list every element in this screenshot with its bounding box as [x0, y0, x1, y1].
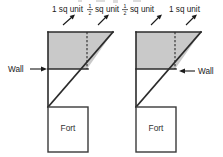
left-triangle-frac-denominator: 2	[89, 10, 92, 16]
right-fort-label: Fort	[149, 123, 165, 133]
left-triangle-frac-numerator: 1	[89, 3, 92, 9]
diagram-svg: Fort Wall 1 sq unit 1 2 sq unit	[0, 0, 223, 157]
right-triangle-pointer-arrow-icon	[186, 15, 197, 26]
left-panel: Fort Wall 1 sq unit 1 2 sq unit	[8, 3, 120, 152]
right-rect-area-label: 1 sq unit	[169, 5, 201, 14]
right-wall-label: Wall	[198, 67, 214, 76]
right-triangle-frac-denominator: 2	[124, 10, 127, 16]
left-wall-arrow-icon	[30, 66, 47, 71]
top-crop-remnant	[78, 0, 141, 3]
right-triangle-frac-numerator: 1	[124, 3, 127, 9]
left-triangle-area-unit: sq unit	[95, 5, 120, 14]
right-shaded-rectangle	[136, 32, 175, 69]
left-wall-label: Wall	[8, 65, 24, 74]
left-triangle-area-label: 1 2 sq unit	[87, 3, 120, 16]
right-triangle-area-unit: sq unit	[130, 5, 155, 14]
left-rect-pointer-arrow-icon	[63, 15, 75, 26]
right-triangle-area-label: 1 2 sq unit	[122, 3, 155, 16]
right-rect-pointer-arrow-icon	[151, 15, 162, 26]
left-fort-label: Fort	[61, 123, 77, 133]
left-triangle-pointer-arrow-icon	[98, 15, 109, 26]
left-rect-area-label: 1 sq unit	[52, 5, 84, 14]
right-panel: Fort Wall 1 2 sq unit 1 sq unit	[122, 3, 214, 152]
left-shaded-rectangle	[48, 32, 87, 69]
figure-root: Fort Wall 1 sq unit 1 2 sq unit	[0, 0, 223, 157]
right-wall-arrow-icon	[179, 68, 195, 73]
